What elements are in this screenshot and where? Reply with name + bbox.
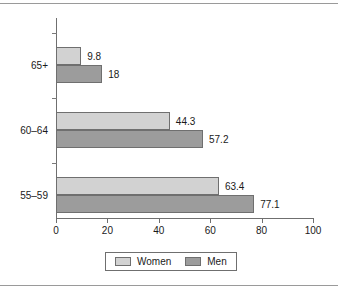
x-axis-tick-label: 100: [305, 225, 322, 236]
x-axis-line: [56, 218, 313, 219]
x-axis-tick-label: 0: [53, 225, 59, 236]
bottom-divider-rule: [0, 285, 338, 286]
x-axis-tick: [159, 218, 160, 223]
chart-legend: WomenMen: [105, 252, 237, 271]
bar-women-5559: [56, 177, 219, 195]
legend-label: Women: [137, 256, 171, 267]
legend-entry-women: Women: [115, 256, 171, 267]
category-axis-tick: [52, 98, 57, 99]
legend-swatch-icon: [185, 257, 201, 266]
bar-men-65+: [56, 65, 102, 83]
x-axis-tick-label: 20: [102, 225, 113, 236]
bar-value-label: 77.1: [260, 199, 279, 210]
bar-value-label: 18: [108, 69, 119, 80]
plot-area: 65+60–6455–59 9.81844.357.263.477.1 0204…: [56, 18, 313, 218]
bar-value-label: 57.2: [209, 134, 228, 145]
bar-chart-figure: 65+60–6455–59 9.81844.357.263.477.1 0204…: [0, 0, 338, 291]
category-axis-tick: [52, 163, 57, 164]
bar-men-5559: [56, 195, 254, 213]
x-axis-tick: [313, 218, 314, 223]
bar-women-65+: [56, 47, 81, 65]
x-axis-tick: [262, 218, 263, 223]
x-axis-tick: [210, 218, 211, 223]
legend-entry-men: Men: [185, 256, 226, 267]
category-axis-label: 60–64: [20, 125, 48, 136]
x-axis-tick-label: 60: [205, 225, 216, 236]
category-axis-label: 65+: [31, 60, 48, 71]
bar-women-6064: [56, 112, 170, 130]
x-axis-tick-label: 40: [153, 225, 164, 236]
top-divider-rule: [0, 3, 338, 4]
bar-value-label: 9.8: [87, 51, 101, 62]
category-axis-tick: [52, 33, 57, 34]
category-axis-label: 55–59: [20, 190, 48, 201]
x-axis-tick: [107, 218, 108, 223]
bar-value-label: 44.3: [176, 116, 195, 127]
legend-label: Men: [207, 256, 226, 267]
bar-men-6064: [56, 130, 203, 148]
x-axis-tick-label: 80: [256, 225, 267, 236]
legend-swatch-icon: [115, 257, 131, 266]
x-axis-tick: [56, 218, 57, 223]
bar-value-label: 63.4: [225, 181, 244, 192]
